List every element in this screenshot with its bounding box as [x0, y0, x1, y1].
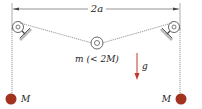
left-mass-label: M — [20, 94, 31, 104]
right-pulley-icon — [161, 22, 180, 41]
gravity-label: g — [142, 61, 148, 71]
right-mass-icon — [176, 94, 187, 105]
dimension-label: 2a — [90, 3, 103, 14]
arrowhead-right-icon — [173, 8, 179, 11]
center-ring-icon — [91, 37, 103, 49]
left-pulley-icon — [13, 22, 32, 41]
pulley-system-diagram: 2a m (< 2M) g M M — [0, 0, 202, 109]
arrowhead-left-icon — [13, 8, 19, 11]
center-mass-label: m (< 2M) — [75, 54, 119, 64]
gravity-arrow-icon — [135, 53, 140, 80]
left-mass-icon — [6, 94, 17, 105]
right-mass-label: M — [161, 94, 172, 104]
